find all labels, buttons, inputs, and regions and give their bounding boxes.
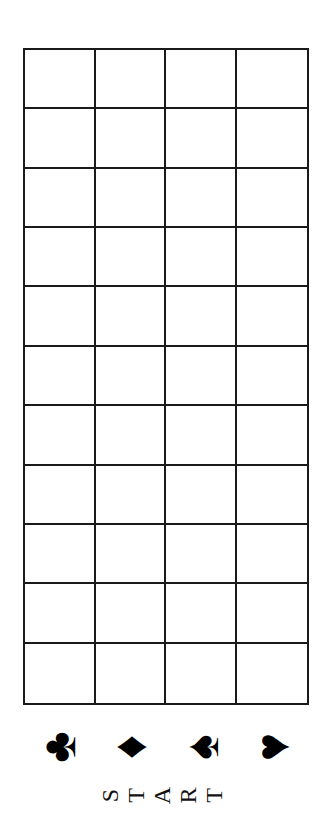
board-cell[interactable] — [237, 50, 308, 109]
board-cell[interactable] — [96, 169, 167, 228]
board-cell[interactable] — [237, 287, 308, 346]
board-cell[interactable] — [25, 347, 96, 406]
board-cell[interactable] — [25, 228, 96, 287]
board-cell[interactable] — [166, 228, 237, 287]
board-cell[interactable] — [166, 109, 237, 168]
board-cell[interactable] — [96, 644, 167, 703]
board-cell[interactable] — [25, 525, 96, 584]
board-cell[interactable] — [96, 584, 167, 643]
start-letter: T — [123, 785, 150, 807]
suit-row: ♣ ♦ ♠ ♥ — [23, 722, 309, 772]
board-cell[interactable] — [237, 584, 308, 643]
board-cell[interactable] — [166, 287, 237, 346]
board-cell[interactable] — [237, 466, 308, 525]
board-cell[interactable] — [25, 644, 96, 703]
board-cell[interactable] — [237, 525, 308, 584]
board-cell[interactable] — [25, 169, 96, 228]
game-board — [23, 48, 309, 705]
board-cell[interactable] — [237, 109, 308, 168]
board-cell[interactable] — [25, 109, 96, 168]
board-cell[interactable] — [237, 347, 308, 406]
board-cell[interactable] — [166, 466, 237, 525]
board-cell[interactable] — [166, 406, 237, 465]
start-letter: R — [175, 785, 202, 807]
board-cell[interactable] — [237, 644, 308, 703]
board-cell[interactable] — [166, 644, 237, 703]
board-cell[interactable] — [166, 50, 237, 109]
spades-icon: ♠ — [166, 722, 238, 772]
board-cell[interactable] — [25, 287, 96, 346]
board-cell[interactable] — [237, 406, 308, 465]
board-cell[interactable] — [96, 466, 167, 525]
clubs-glyph: ♣ — [35, 731, 83, 763]
clubs-icon: ♣ — [23, 722, 95, 772]
hearts-glyph: ♥ — [249, 733, 297, 762]
hearts-icon: ♥ — [238, 722, 310, 772]
board-cell[interactable] — [166, 584, 237, 643]
start-label: S T A R T — [0, 782, 324, 809]
diamonds-glyph: ♦ — [106, 735, 154, 760]
board-cell[interactable] — [96, 287, 167, 346]
board-cell[interactable] — [166, 169, 237, 228]
board-cell[interactable] — [96, 109, 167, 168]
board-cell[interactable] — [96, 228, 167, 287]
diamonds-icon: ♦ — [95, 722, 167, 772]
board-cell[interactable] — [25, 466, 96, 525]
board-cell[interactable] — [25, 50, 96, 109]
start-letter: T — [201, 785, 228, 807]
board-cell[interactable] — [25, 584, 96, 643]
board-cell[interactable] — [166, 347, 237, 406]
board-cell[interactable] — [237, 169, 308, 228]
spades-glyph: ♠ — [178, 734, 226, 760]
board-cell[interactable] — [96, 50, 167, 109]
board-cell[interactable] — [96, 525, 167, 584]
board-cell[interactable] — [25, 406, 96, 465]
start-letter: S — [97, 785, 124, 807]
board-cell[interactable] — [96, 347, 167, 406]
board-cell[interactable] — [166, 525, 237, 584]
board-cell[interactable] — [237, 228, 308, 287]
board-cell[interactable] — [96, 406, 167, 465]
start-letter: A — [149, 785, 176, 807]
